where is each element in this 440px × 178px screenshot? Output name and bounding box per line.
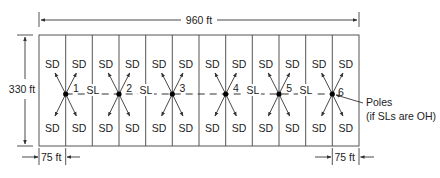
subdivision-layout-diagram: 960 ft 330 ft SD SD SD SD SD SD SD SD — [0, 0, 440, 178]
lot-width-dimension-right: 75 ft — [315, 148, 374, 165]
lot-width-label-right: 75 ft — [335, 151, 356, 163]
lot-width-label-left: 75 ft — [41, 151, 62, 163]
pole-1: 1 — [55, 73, 79, 116]
sl-label: SL — [247, 84, 260, 96]
height-dimension: 330 ft — [9, 35, 39, 146]
sd-label: SD — [152, 58, 167, 70]
height-dimension-label: 330 ft — [9, 83, 35, 95]
sd-label: SD — [258, 58, 273, 70]
sl-label: SL — [140, 84, 153, 96]
sd-label: SD — [285, 58, 300, 70]
sd-label: SD — [205, 58, 220, 70]
width-dimension: 960 ft — [39, 12, 359, 27]
pole-dot — [330, 91, 335, 96]
pole-dot — [223, 91, 228, 96]
poles-callout: Poles (if SLs are OH) — [336, 95, 436, 122]
pole-number: 1 — [73, 82, 79, 94]
sd-label: SD — [125, 58, 140, 70]
sd-label: SD — [72, 122, 87, 134]
sd-label: SD — [232, 58, 247, 70]
width-dimension-label: 960 ft — [186, 14, 212, 26]
pole-number: 5 — [286, 82, 292, 94]
sl-label: SL — [87, 84, 100, 96]
sd-label: SD — [258, 122, 273, 134]
pole-number: 4 — [233, 82, 239, 94]
sd-label: SD — [45, 58, 60, 70]
sd-label: SD — [125, 122, 140, 134]
sd-label: SD — [205, 122, 220, 134]
sd-label: SD — [98, 58, 113, 70]
pole-number: 3 — [180, 82, 186, 94]
pole-dot — [170, 91, 175, 96]
sd-label: SD — [178, 58, 193, 70]
lot-width-dimension-left: 75 ft — [22, 148, 80, 165]
sd-label: SD — [285, 122, 300, 134]
sd-label: SD — [178, 122, 193, 134]
sd-label: SD — [98, 122, 113, 134]
sd-label: SD — [72, 58, 87, 70]
pole-dot — [116, 91, 121, 96]
callout-line2: (if SLs are OH) — [366, 110, 436, 122]
sd-label: SD — [232, 122, 247, 134]
callout-line1: Poles — [366, 96, 392, 108]
sd-label: SD — [338, 58, 353, 70]
sd-label: SD — [338, 122, 353, 134]
sl-label: SL — [300, 84, 313, 96]
pole-number: 2 — [126, 82, 132, 94]
pole-dot — [276, 91, 281, 96]
sd-label: SD — [312, 122, 327, 134]
sd-label: SD — [45, 122, 60, 134]
sd-label: SD — [312, 58, 327, 70]
pole-dot — [63, 91, 68, 96]
sd-label: SD — [152, 122, 167, 134]
